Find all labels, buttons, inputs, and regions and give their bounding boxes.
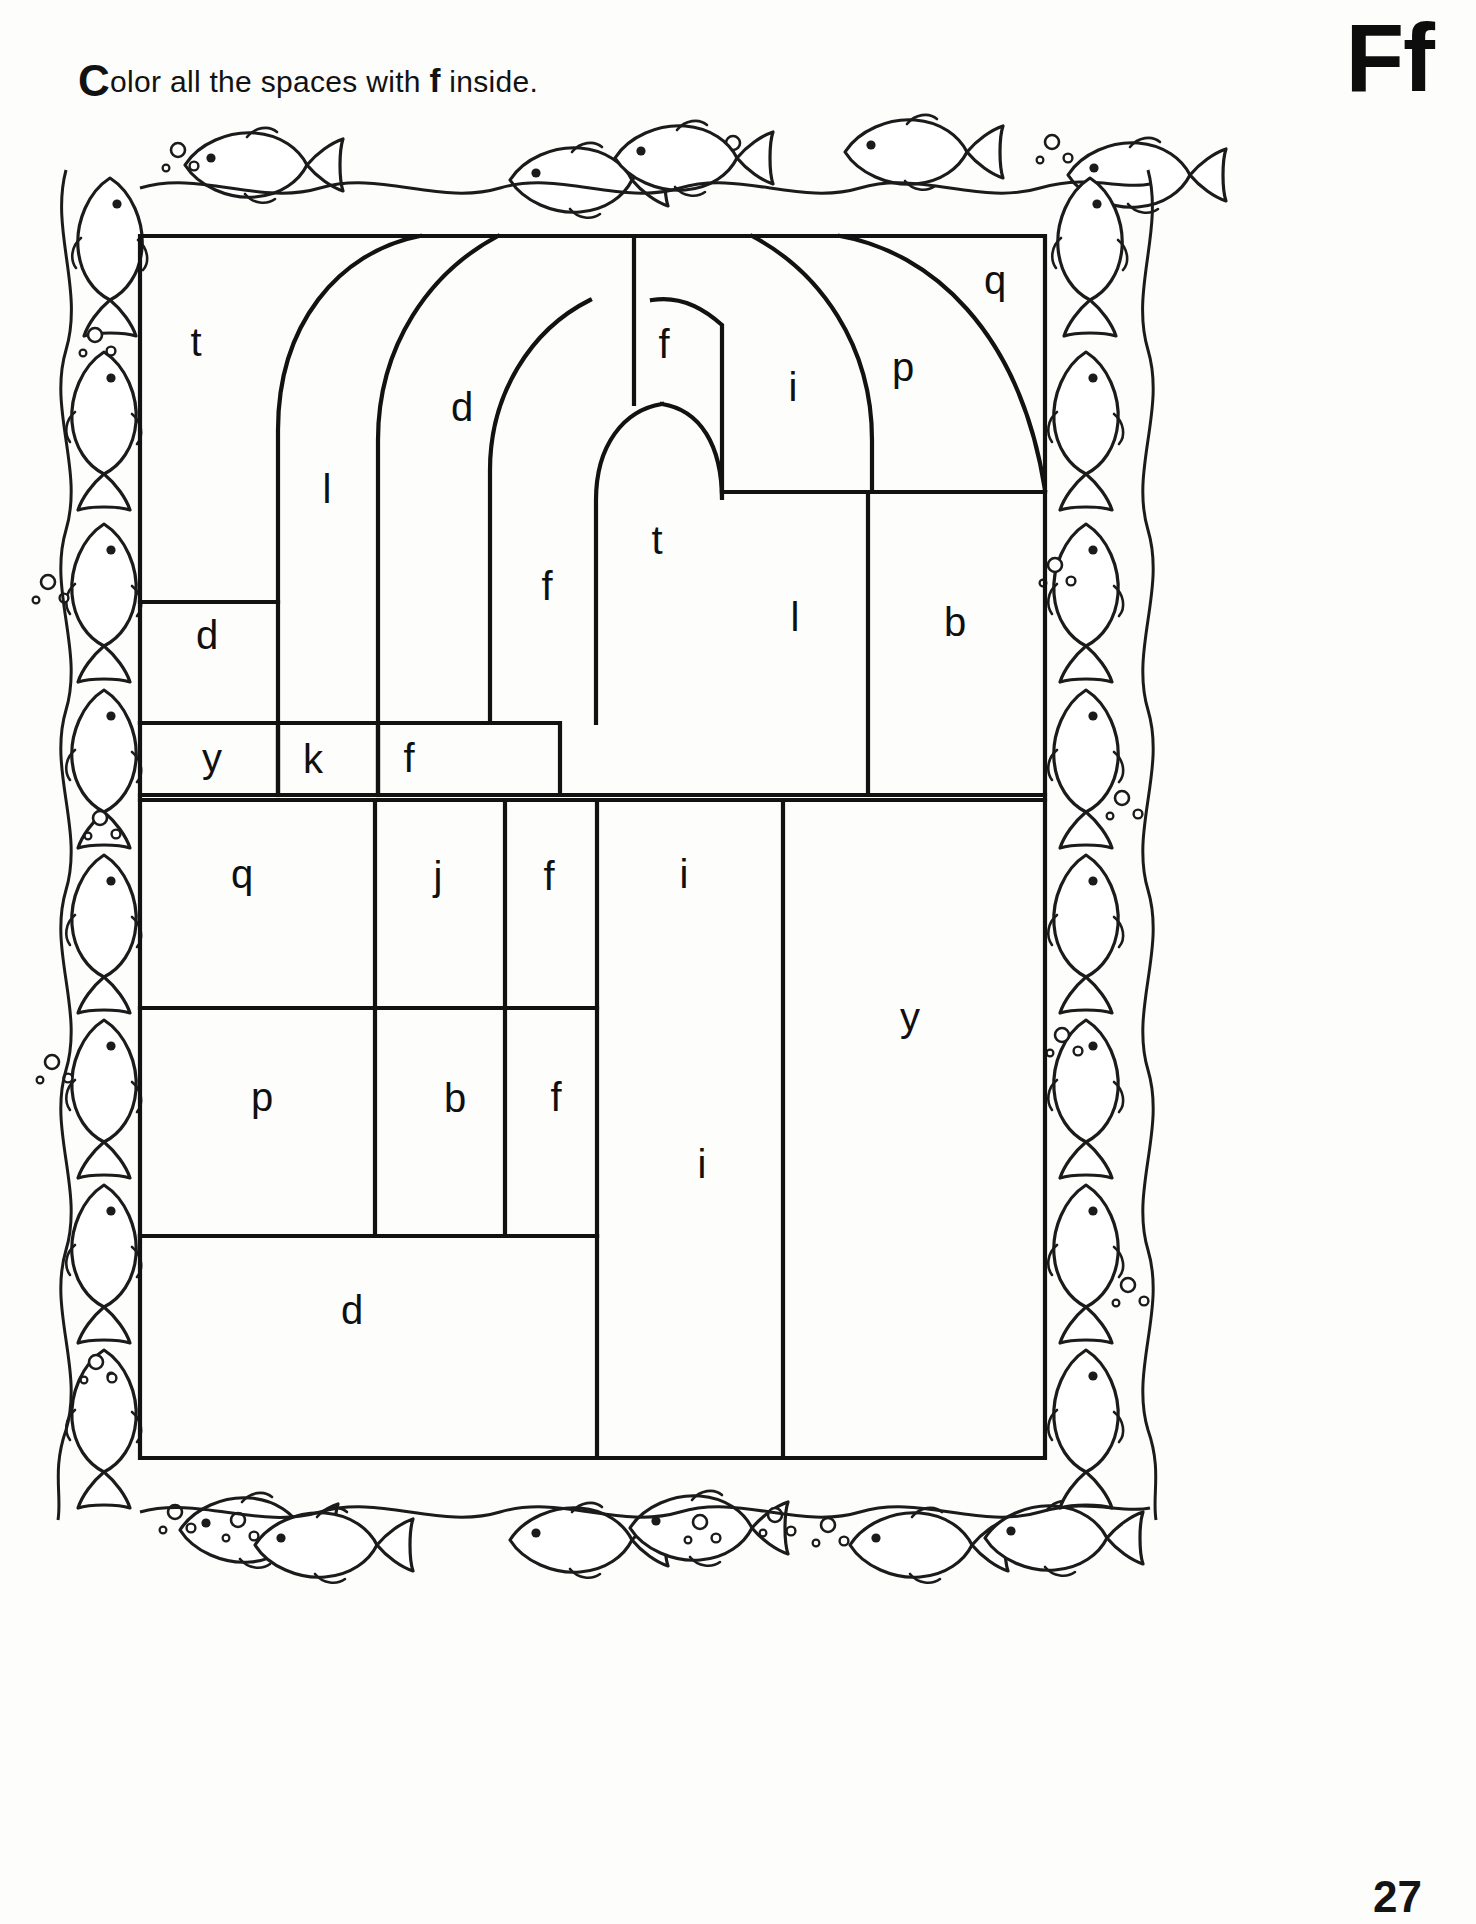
cell-letter: y xyxy=(900,995,920,1039)
cell-letter: f xyxy=(658,322,670,366)
cell-letter: q xyxy=(984,258,1006,302)
cell-letter: p xyxy=(892,345,914,389)
arch-inner-right xyxy=(662,404,722,500)
cell-letter: t xyxy=(190,320,201,364)
cell-letter: l xyxy=(791,595,800,639)
cell-letter: i xyxy=(680,852,689,896)
arch-second-left xyxy=(378,236,498,795)
divider-strip-extension xyxy=(452,723,560,795)
cell-letter: b xyxy=(944,600,966,644)
cell-letter: q xyxy=(231,852,253,896)
cell-letter: d xyxy=(196,613,218,657)
puzzle-outline xyxy=(140,236,1045,1458)
cell-letter: j xyxy=(433,854,443,898)
cell-letter: f xyxy=(403,736,415,780)
cell-letter: f xyxy=(543,854,555,898)
arch-outer-left xyxy=(278,236,420,795)
cell-letter: k xyxy=(303,737,324,781)
cell-letter: d xyxy=(451,385,473,429)
cell-letter: t xyxy=(651,518,662,562)
cell-letter: i xyxy=(698,1142,707,1186)
cell-letter: f xyxy=(550,1075,562,1119)
arch-inner-left xyxy=(596,404,662,723)
cell-letter: l xyxy=(323,467,332,511)
page-number: 27 xyxy=(1373,1872,1422,1922)
cell-letter: y xyxy=(202,736,222,780)
worksheet-page: Color all the spaces with f inside. Ff xyxy=(0,0,1476,1924)
color-by-letter-puzzle: t l d f f t i p q l b d y k f q j f i y … xyxy=(0,0,1476,1924)
cell-letter: p xyxy=(251,1075,273,1119)
arch-second-right xyxy=(752,236,872,490)
cell-letter: b xyxy=(444,1076,466,1120)
arch-third-left xyxy=(490,300,590,723)
cell-letter: d xyxy=(341,1288,363,1332)
cell-letter: i xyxy=(789,365,798,409)
cell-letter: f xyxy=(541,564,553,608)
grid-frame xyxy=(140,236,1045,1458)
